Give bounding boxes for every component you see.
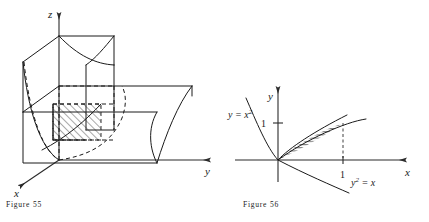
figure-56: y x 1 1 y = x2 y2 = x Figure 56 xyxy=(225,0,429,222)
label-y-x2-exponent: 2 xyxy=(249,108,253,116)
x-axis-line xyxy=(22,160,59,185)
figure-55-drawing: z y x xyxy=(0,0,225,200)
figure-56-caption-word: Figure xyxy=(243,200,267,209)
y-axis-label: y xyxy=(267,90,273,102)
prism-right-curved-edge-back xyxy=(157,86,192,163)
label-curve-y-squared-equals-x: y2 = x xyxy=(350,176,376,188)
y-axis-label: y xyxy=(204,165,210,177)
label-curve-y-equals-x-squared: y = x2 xyxy=(227,108,253,120)
z-axis-label: z xyxy=(47,8,53,20)
figure-56-drawing: y x 1 1 y = x2 y2 = x xyxy=(225,0,429,200)
figure-55: z y x Figure 55 xyxy=(0,0,225,222)
x-axis-label: x xyxy=(13,187,19,199)
figure-56-caption: Figure 56 xyxy=(243,199,279,209)
label-y-x2-base: y = x xyxy=(227,109,249,120)
figures-page: z y x Figure 55 xyxy=(0,0,429,222)
prism-right-curved-edge-front xyxy=(151,112,157,163)
figure-56-caption-number: 56 xyxy=(270,200,279,209)
wall-top-left-edge xyxy=(23,36,59,62)
wall-top-curve-inner xyxy=(59,36,114,65)
hatched-cross-section xyxy=(42,104,101,150)
wall-top-curve-outer xyxy=(86,36,114,65)
hatched-square-fill xyxy=(53,104,101,140)
figure-55-caption-number: 55 xyxy=(33,200,42,209)
figure-55-caption-word: Figure xyxy=(6,200,30,209)
prism-solid xyxy=(23,86,192,163)
y-axis-tick-label: 1 xyxy=(261,118,266,129)
cylinder-wall-solid xyxy=(23,36,114,160)
x-axis-label: x xyxy=(404,166,410,178)
shaded-area-between-curves xyxy=(278,123,343,160)
figure-55-caption: Figure 55 xyxy=(6,199,42,209)
label-y2-x-base-right: = x xyxy=(359,177,376,188)
x-axis-tick-label: 1 xyxy=(340,169,345,180)
